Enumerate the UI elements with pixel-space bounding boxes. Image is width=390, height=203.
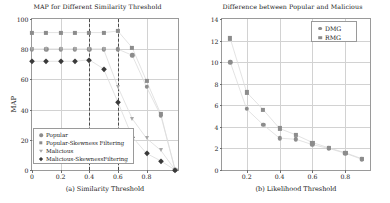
legend-item-popular-skewness-filtering: Popular-Skewness Filtering — [37, 139, 130, 147]
x-tick-label: 0.2 — [242, 173, 252, 180]
x-tick-label: 0.8 — [340, 173, 350, 180]
data-point-malicious — [30, 47, 34, 51]
chart-a-title: MAP for Different Similarity Threshold — [0, 3, 195, 10]
y-tick-label: 40 — [21, 106, 29, 113]
data-point-popular-skewness-filtering — [116, 29, 120, 33]
legend-label: Popular — [46, 131, 68, 139]
legend-label: Malicious-SkewnessFiltering — [46, 155, 128, 163]
legend-item-rmg: RMG — [316, 33, 352, 42]
data-point-malicious — [59, 47, 63, 51]
legend-label: RMG — [325, 33, 341, 42]
data-point-popular-skewness-filtering — [44, 30, 48, 34]
diamond-marker-icon — [37, 155, 46, 163]
y-tick-label: 6 — [215, 102, 219, 109]
data-point-rmg — [261, 108, 265, 112]
data-point-popular-skewness-filtering — [87, 30, 91, 34]
legend-item-malicious-skewness-filtering: Malicious-SkewnessFiltering — [37, 155, 130, 163]
x-tick-label: 0 — [30, 173, 34, 180]
y-tick-label: 8 — [215, 80, 219, 87]
legend-item-popular: Popular — [37, 131, 130, 139]
chart-b-legend: DMG RMG — [311, 21, 357, 42]
data-point-popular-skewness-filtering — [101, 30, 105, 34]
data-point-malicious — [73, 47, 77, 51]
legend-item-malicious: Malicious — [37, 147, 130, 155]
data-point-popular-skewness-filtering — [73, 30, 77, 34]
legend-label: DMG — [325, 24, 341, 33]
y-tick-label: 4 — [215, 123, 219, 130]
data-point-rmg — [310, 140, 314, 144]
data-point-popular-skewness-filtering — [59, 30, 63, 34]
chart-a-legend: Popular Popular-Skewness Filtering Malic… — [33, 128, 134, 164]
x-tick-label: 0.2 — [56, 173, 66, 180]
data-point-popular-skewness-filtering — [130, 46, 134, 50]
y-tick-label: 2 — [215, 145, 219, 152]
data-point-rmg — [343, 151, 347, 155]
y-tick-label: 60 — [21, 76, 29, 83]
square-marker-icon — [316, 34, 325, 42]
y-tick-mark — [220, 170, 223, 171]
chart-a-x-axis-label: (a) Similarity Threshold — [31, 185, 179, 193]
y-tick-label: 10 — [211, 59, 219, 66]
y-tick-label: 100 — [17, 16, 29, 23]
square-marker-icon — [37, 139, 46, 147]
chart-panel-b: Difference between Popular and Malicious… — [195, 0, 390, 203]
data-point-malicious — [44, 47, 48, 51]
figure-two-panel-charts: MAP for Different Similarity Threshold 0… — [0, 0, 390, 203]
data-point-malicious — [159, 148, 163, 152]
chart-b-x-axis-label: (b) Likelihood Threshold — [221, 185, 371, 193]
chart-a-y-axis-label: MAP — [10, 96, 18, 112]
y-tick-label: 12 — [211, 37, 219, 44]
legend-item-dmg: DMG — [316, 24, 352, 33]
data-point-rmg — [294, 133, 298, 137]
legend-label: Popular-Skewness Filtering — [46, 139, 124, 147]
chart-panel-a: MAP for Different Similarity Threshold 0… — [0, 0, 195, 203]
data-point-malicious — [145, 136, 149, 140]
data-point-popular-skewness-filtering — [30, 30, 34, 34]
triangle-down-marker-icon — [37, 147, 46, 155]
x-tick-label: 0.6 — [308, 173, 318, 180]
data-point-rmg — [360, 157, 364, 161]
y-tick-label: 0 — [215, 167, 219, 174]
data-point-rmg — [245, 90, 249, 94]
data-point-rmg — [327, 146, 331, 150]
y-tick-label: 80 — [21, 46, 29, 53]
data-point-rmg — [228, 36, 232, 40]
x-tick-label: 0.4 — [84, 173, 94, 180]
legend-label: Malicious — [46, 147, 73, 155]
data-point-rmg — [277, 126, 281, 130]
x-tick-label: 0.8 — [142, 173, 152, 180]
y-tick-label: 0 — [25, 167, 29, 174]
data-point-malicious — [87, 47, 91, 51]
x-tick-label: 0.4 — [275, 173, 285, 180]
data-point-popular-skewness-filtering — [144, 79, 148, 83]
y-tick-label: 20 — [21, 136, 29, 143]
data-point-malicious — [116, 85, 120, 89]
x-tick-label: 0.6 — [113, 173, 123, 180]
circle-marker-icon — [316, 25, 325, 33]
data-point-malicious — [130, 117, 134, 121]
data-point-malicious — [102, 47, 106, 51]
circle-marker-icon — [37, 131, 46, 139]
chart-b-title: Difference between Popular and Malicious — [195, 3, 390, 10]
y-tick-label: 14 — [211, 16, 219, 23]
data-point-popular-skewness-filtering — [159, 112, 163, 116]
